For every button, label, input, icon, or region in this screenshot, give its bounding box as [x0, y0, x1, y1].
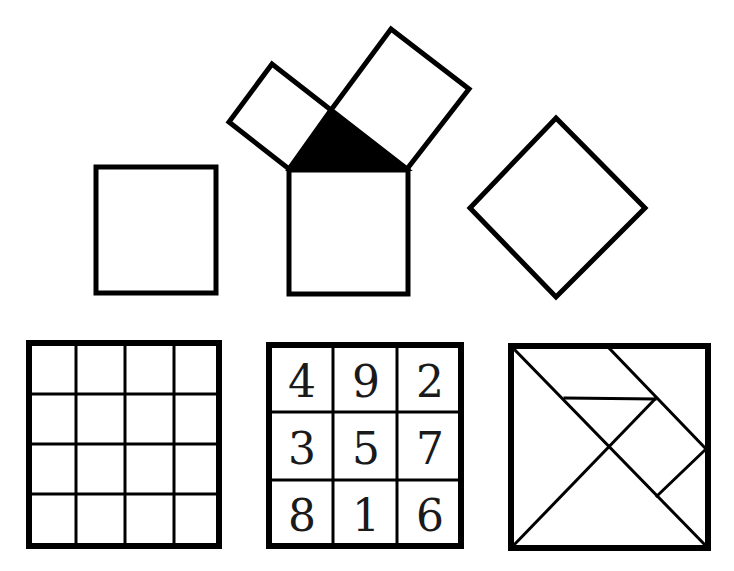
hypotenuse-square: [289, 170, 408, 294]
figure-canvas: 4 9 2 3 5 7 8 1 6: [0, 0, 734, 571]
magic-square-3x3: 4 9 2 3 5 7 8 1 6: [269, 345, 461, 546]
pythagoras-diagram: [229, 29, 469, 294]
plain-square: [96, 167, 216, 293]
magic-cell: 9: [352, 356, 380, 407]
magic-cell: 2: [416, 356, 444, 407]
tangram-square: [511, 346, 708, 548]
magic-cell: 3: [288, 423, 316, 474]
grid-4x4: [29, 343, 219, 546]
diamond-square: [470, 118, 645, 297]
magic-cell: 7: [416, 423, 444, 474]
magic-cell: 4: [288, 356, 316, 407]
magic-cell: 6: [416, 490, 444, 541]
magic-cell: 5: [352, 423, 380, 474]
magic-cell: 1: [352, 490, 380, 541]
magic-cell: 8: [288, 490, 316, 541]
